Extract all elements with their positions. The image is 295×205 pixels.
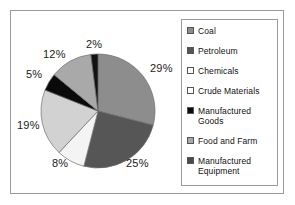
pie-slice-value-label: 2%	[86, 38, 102, 50]
legend-item-label: Chemicals	[198, 66, 239, 76]
legend-swatch-icon	[187, 87, 194, 94]
legend-item-label: Coal	[198, 26, 216, 36]
legend-item[interactable]: Crude Materials	[187, 86, 277, 96]
pie-slice-value-label: 25%	[126, 157, 149, 169]
legend-swatch-icon	[187, 137, 194, 144]
chart-legend: CoalPetroleumChemicalsCrude MaterialsMan…	[181, 19, 278, 186]
legend-item-label: Manufactured Goods	[198, 106, 277, 126]
legend-item-label: Petroleum	[198, 46, 238, 56]
legend-swatch-icon	[187, 27, 194, 34]
legend-item[interactable]: Petroleum	[187, 46, 277, 56]
legend-item[interactable]: Food and Farm	[187, 136, 277, 146]
pie-slice-value-label: 8%	[52, 157, 68, 169]
pie-slice-value-label: 5%	[26, 68, 42, 80]
pie-chart-area: 29%25%8%19%5%12%2%	[11, 11, 186, 195]
legend-item-label: Food and Farm	[198, 136, 257, 146]
chart-frame: 29%25%8%19%5%12%2% CoalPetroleumChemical…	[10, 10, 284, 194]
legend-swatch-icon	[187, 157, 194, 164]
legend-swatch-icon	[187, 107, 194, 114]
pie-slice-value-label: 12%	[43, 48, 66, 60]
pie-slice-value-label: 29%	[150, 62, 173, 74]
pie-slice-value-label: 19%	[17, 119, 40, 131]
legend-item-label: Manufactured Equipment	[198, 156, 277, 176]
legend-item[interactable]: Manufactured Goods	[187, 106, 277, 126]
legend-swatch-icon	[187, 47, 194, 54]
legend-item-label: Crude Materials	[198, 86, 260, 96]
legend-item[interactable]: Manufactured Equipment	[187, 156, 277, 176]
legend-item[interactable]: Chemicals	[187, 66, 277, 76]
legend-item[interactable]: Coal	[187, 26, 277, 36]
legend-swatch-icon	[187, 67, 194, 74]
